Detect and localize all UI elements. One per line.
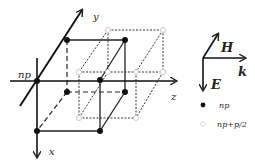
y-axis bbox=[20, 10, 82, 106]
h-label: H bbox=[220, 40, 234, 55]
legend-label-np: np bbox=[219, 101, 229, 110]
e-label: E bbox=[210, 77, 222, 92]
axes bbox=[10, 10, 176, 157]
k-label: k bbox=[238, 64, 247, 79]
legend-filled-marker bbox=[201, 103, 206, 108]
x-axis-label: x bbox=[49, 146, 55, 157]
legend-label-np-half: np+p/2 bbox=[217, 120, 247, 129]
hollow-nodes bbox=[76, 27, 165, 120]
z-axis-label: z bbox=[170, 91, 177, 102]
origin-label: np bbox=[18, 69, 31, 80]
y-axis-label: y bbox=[92, 11, 99, 22]
legend: np np+p/2 bbox=[201, 101, 247, 129]
h-vector bbox=[203, 34, 218, 58]
yee-cell-diagram: np y z x H k E np np+p/2 bbox=[0, 0, 255, 166]
shifted-cube bbox=[79, 30, 163, 118]
legend-hollow-marker bbox=[201, 122, 206, 127]
